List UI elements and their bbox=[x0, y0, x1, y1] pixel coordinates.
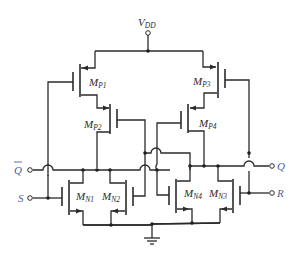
nmos-arrow-icon bbox=[183, 207, 189, 212]
nmos-arrow-icon bbox=[221, 207, 227, 212]
r-input: R bbox=[240, 171, 284, 199]
pmos-arrow-icon bbox=[210, 65, 216, 70]
transistor-mn2: MN2 bbox=[101, 170, 145, 225]
s-input: S bbox=[18, 175, 62, 204]
transistor-mn3: MN3 bbox=[208, 166, 240, 223]
qbar-terminal[interactable] bbox=[28, 168, 33, 173]
vdd-supply: VDD bbox=[95, 16, 203, 53]
r-terminal[interactable] bbox=[270, 191, 275, 196]
vdd-terminal bbox=[146, 31, 151, 36]
ground-bus bbox=[83, 221, 220, 238]
transistor-mp1: MP1 bbox=[48, 51, 109, 166]
cross-coupling-wires bbox=[143, 148, 190, 183]
svg-text:MN4: MN4 bbox=[183, 187, 202, 201]
s-terminal[interactable] bbox=[28, 196, 33, 201]
q-label: Q bbox=[277, 160, 285, 172]
svg-text:MN1: MN1 bbox=[75, 190, 94, 204]
q-terminal[interactable] bbox=[270, 164, 275, 169]
transistor-mp2: MP2 bbox=[83, 104, 145, 168]
s-label: S bbox=[18, 192, 24, 204]
nmos-arrow-icon bbox=[76, 209, 82, 214]
transistor-mn4: MN4 bbox=[157, 166, 202, 223]
transistor-mn1: MN1 bbox=[62, 170, 94, 225]
qbar-label: Q bbox=[14, 164, 22, 176]
svg-text:MP2: MP2 bbox=[83, 118, 102, 132]
svg-text:MN3: MN3 bbox=[208, 187, 227, 201]
svg-text:MP3: MP3 bbox=[192, 75, 211, 89]
transistor-mp3: MP3 bbox=[190, 51, 249, 158]
q-node: Q bbox=[188, 151, 285, 172]
pmos-arrow-icon bbox=[82, 66, 88, 71]
nmos-arrow-icon bbox=[112, 209, 118, 214]
sr-latch-schematic: VDD MP1 MP2 MP3 bbox=[0, 0, 295, 261]
svg-text:MN2: MN2 bbox=[101, 190, 120, 204]
svg-text:VDD: VDD bbox=[138, 16, 156, 30]
r-label: R bbox=[276, 187, 284, 199]
pmos-arrow-icon bbox=[103, 106, 109, 111]
pmos-arrow-icon bbox=[190, 106, 196, 111]
qbar-node: Q bbox=[14, 162, 170, 176]
svg-text:MP4: MP4 bbox=[198, 117, 217, 131]
ground-icon bbox=[144, 238, 160, 244]
svg-text:MP1: MP1 bbox=[88, 76, 107, 90]
transistor-mp4: MP4 bbox=[157, 104, 217, 166]
